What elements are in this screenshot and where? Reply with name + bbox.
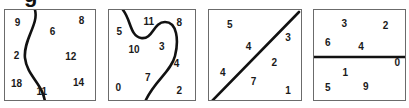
- region-number: 2: [383, 21, 389, 31]
- region-number: 7: [251, 77, 257, 87]
- region-number: 9: [363, 82, 369, 92]
- region-number: 2: [14, 51, 20, 61]
- region-number: 10: [128, 45, 139, 55]
- region-number: 0: [394, 58, 400, 68]
- region-number: 9: [15, 18, 21, 28]
- region-number: 4: [174, 59, 180, 69]
- region-number: 5: [116, 27, 122, 37]
- region-number: 3: [342, 19, 348, 29]
- region-number: 8: [176, 18, 182, 28]
- region-number: 18: [11, 79, 22, 89]
- region-number: 1: [285, 86, 291, 96]
- region-number: 11: [36, 87, 47, 97]
- panel-2: 51181034702: [108, 9, 196, 101]
- region-number: 2: [176, 86, 182, 96]
- region-number: 2: [272, 58, 278, 68]
- region-number: 14: [73, 78, 84, 88]
- panel-4: 32640159: [313, 9, 406, 101]
- region-number: 6: [50, 27, 56, 37]
- region-number: 4: [220, 68, 226, 78]
- panel-1: 968212181114: [4, 9, 96, 101]
- region-number: 8: [79, 16, 85, 26]
- figure-container: g 968212181114 51181034702 5342471 32640…: [0, 0, 409, 108]
- region-number: 3: [159, 42, 165, 52]
- region-number: 5: [227, 20, 233, 30]
- region-number: 4: [358, 42, 364, 52]
- region-number: 11: [143, 17, 154, 27]
- region-number: 1: [343, 68, 349, 78]
- region-number: 6: [325, 38, 331, 48]
- panel-3: 5342471: [208, 9, 302, 101]
- region-number: 5: [325, 83, 331, 93]
- region-number: 0: [115, 83, 121, 93]
- region-number: 4: [246, 42, 252, 52]
- region-number: 7: [145, 73, 151, 83]
- region-number: 3: [285, 33, 291, 43]
- region-number: 12: [65, 52, 76, 62]
- caption-fragment-text: g: [24, 0, 37, 6]
